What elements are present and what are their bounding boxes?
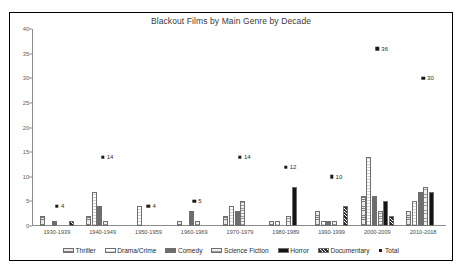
bar-horror [383, 201, 388, 226]
chart-title: Blackout Films by Main Genre by Decade [10, 16, 452, 26]
bar-documentary [69, 221, 74, 226]
bar-group: 1980-1989 [263, 29, 309, 226]
bar-drama-crime [412, 201, 417, 226]
bar-group: 1960-1969 [171, 29, 217, 226]
plot-area: 05101520253035401930-193941940-194914195… [32, 29, 446, 226]
total-data-label: 10 [336, 174, 343, 180]
bar-drama-crime [275, 221, 280, 226]
bar-science-fiction [103, 221, 108, 226]
legend-swatch [105, 248, 116, 254]
chart-legend: ThrillerDrama/CrimeComedyScience Fiction… [10, 247, 452, 254]
legend-item-total[interactable]: Total [379, 247, 399, 254]
total-data-label: 14 [244, 154, 251, 160]
y-axis-tick-mark [29, 102, 32, 103]
bar-group: 1930-1939 [34, 29, 80, 226]
bar-group: 1940-1949 [80, 29, 126, 226]
total-marker [55, 205, 58, 208]
chart-frame: Blackout Films by Main Genre by Decade 0… [9, 12, 453, 261]
total-data-label: 4 [152, 203, 155, 209]
total-marker [101, 155, 104, 158]
y-axis-tick-mark [29, 78, 32, 79]
legend-item-drama-crime[interactable]: Drama/Crime [105, 247, 157, 254]
bar-thriller [40, 216, 45, 226]
legend-swatch [278, 248, 289, 254]
bar-thriller [269, 221, 274, 226]
legend-label: Documentary [330, 247, 369, 254]
bar-comedy [189, 211, 194, 226]
bar-comedy [418, 192, 423, 226]
bar-group: 2000-2009 [354, 29, 400, 226]
bar-group: 1950-1959 [126, 29, 172, 226]
bar-drama-crime [137, 206, 142, 226]
x-axis-tick-label: 2000-2009 [364, 229, 391, 235]
bar-thriller [177, 221, 182, 226]
bar-thriller [223, 216, 228, 226]
total-data-label: 4 [61, 203, 64, 209]
y-axis-tick-mark [29, 127, 32, 128]
total-data-label: 5 [198, 198, 201, 204]
bar-thriller [361, 196, 366, 226]
legend-label: Total [385, 247, 399, 254]
x-axis-tick-label: 1990-1999 [318, 229, 345, 235]
x-axis-tick-label: 1970-1979 [227, 229, 254, 235]
total-data-label: 30 [427, 75, 434, 81]
x-axis-tick-label: 2010-2018 [410, 229, 437, 235]
legend-item-horror[interactable]: Horror [278, 247, 309, 254]
y-axis-tick-mark [29, 176, 32, 177]
total-data-label: 36 [381, 46, 388, 52]
total-data-label: 14 [107, 154, 114, 160]
bar-comedy [97, 206, 102, 226]
bar-drama-crime [321, 221, 326, 226]
bar-science-fiction [286, 216, 291, 226]
legend-swatch [63, 248, 74, 254]
y-axis-tick-mark [29, 53, 32, 54]
plot-inner: 05101520253035401930-193941940-194914195… [32, 29, 446, 226]
total-marker [421, 77, 424, 80]
bar-science-fiction [332, 221, 337, 226]
bar-group: 1970-1979 [217, 29, 263, 226]
x-axis-tick-label: 1950-1959 [135, 229, 162, 235]
x-axis-tick-label: 1960-1969 [181, 229, 208, 235]
legend-label: Drama/Crime [117, 247, 156, 254]
bar-group: 1990-1999 [309, 29, 355, 226]
bar-group: 2010-2018 [400, 29, 446, 226]
legend-label: Science Fiction [224, 247, 269, 254]
y-axis-tick-mark [29, 226, 32, 227]
legend-label: Thriller [76, 247, 96, 254]
bar-drama-crime [229, 206, 234, 226]
total-marker [330, 175, 333, 178]
bar-drama-crime [92, 192, 97, 226]
legend-item-documentary[interactable]: Documentary [318, 247, 370, 254]
y-axis-tick-mark [29, 29, 32, 30]
x-axis-tick-label: 1980-1989 [272, 229, 299, 235]
bar-documentary [389, 216, 394, 226]
total-marker [193, 200, 196, 203]
legend-swatch [318, 248, 329, 254]
bar-science-fiction [240, 201, 245, 226]
total-marker [284, 165, 287, 168]
bar-horror [429, 192, 434, 226]
legend-marker-square [379, 249, 382, 252]
y-axis-tick-mark [29, 201, 32, 202]
bar-comedy [52, 221, 57, 226]
x-axis-tick-label: 1940-1949 [89, 229, 116, 235]
legend-item-science-fiction[interactable]: Science Fiction [211, 247, 268, 254]
x-axis-tick-label: 1930-1939 [43, 229, 70, 235]
bar-science-fiction [195, 221, 200, 226]
bar-thriller [315, 211, 320, 226]
y-axis-tick-mark [29, 152, 32, 153]
bar-comedy [372, 196, 377, 226]
legend-swatch [211, 248, 222, 254]
bar-thriller [406, 211, 411, 226]
legend-item-thriller[interactable]: Thriller [63, 247, 96, 254]
bar-science-fiction [378, 211, 383, 226]
legend-item-comedy[interactable]: Comedy [165, 247, 202, 254]
bar-horror [292, 187, 297, 226]
bar-science-fiction [423, 187, 428, 226]
legend-label: Comedy [178, 247, 203, 254]
total-marker [147, 205, 150, 208]
bar-drama-crime [366, 157, 371, 226]
total-data-label: 12 [290, 164, 297, 170]
total-marker [376, 47, 379, 50]
bar-documentary [343, 206, 348, 226]
